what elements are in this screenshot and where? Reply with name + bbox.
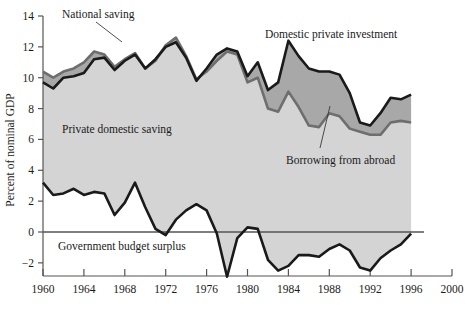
y-tick-label: 6 [28, 133, 34, 145]
x-tick-label: 1964 [72, 283, 95, 295]
chart-container: −202468101214 19601964196819721976198019… [0, 0, 472, 318]
x-tick-label: 1968 [113, 283, 136, 295]
x-tick-label: 1984 [277, 283, 300, 295]
y-tick-label: 8 [28, 103, 34, 115]
y-tick-label: 2 [28, 195, 34, 207]
annotation-government-budget-surplus: Government budget surplus [58, 240, 186, 253]
y-tick-label: 0 [28, 226, 34, 238]
annotation-national-saving: National saving [62, 8, 135, 21]
y-tick-label: −2 [22, 257, 34, 269]
x-tick-label: 1996 [400, 283, 423, 295]
x-tick-label: 2000 [441, 283, 464, 295]
x-tick-label: 1960 [32, 283, 55, 295]
annotation-private-domestic-saving: Private domestic saving [62, 123, 172, 136]
y-tick-label: 10 [23, 72, 35, 84]
y-tick-label: 12 [23, 41, 35, 53]
x-tick-label: 1976 [195, 283, 218, 295]
x-tick-label: 1972 [154, 283, 177, 295]
annotation-domestic-private-investment: Domestic private investment [265, 28, 398, 41]
y-tick-label: 4 [28, 164, 34, 176]
x-tick-label: 1988 [318, 283, 341, 295]
x-tick-label: 1980 [236, 283, 259, 295]
y-axis-title: Percent of nominal GDP [4, 93, 16, 206]
economics-area-chart: −202468101214 19601964196819721976198019… [0, 0, 472, 318]
x-tick-label: 1992 [359, 283, 382, 295]
y-axis-title-text: Percent of nominal GDP [4, 93, 16, 206]
y-tick-label: 14 [23, 10, 35, 22]
annotation-borrowing-from-abroad: Borrowing from abroad [286, 154, 395, 167]
